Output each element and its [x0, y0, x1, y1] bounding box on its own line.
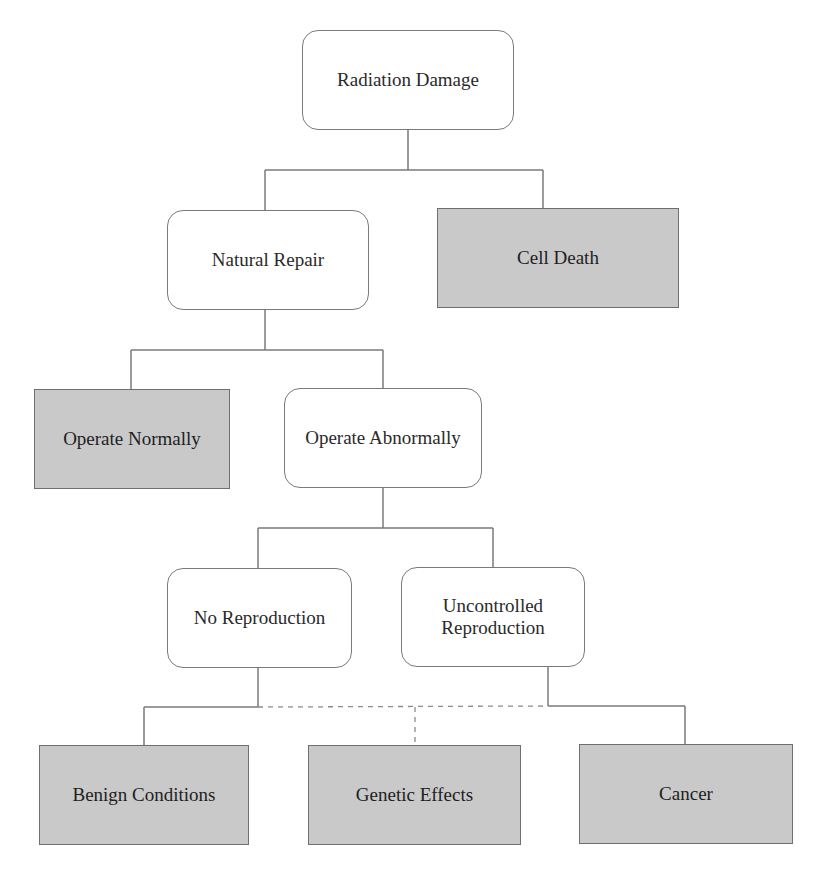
node-label: Benign Conditions [64, 784, 223, 806]
node-label: Uncontrolled Reproduction [425, 595, 561, 639]
node-label: Radiation Damage [329, 69, 487, 91]
node-radiation-damage: Radiation Damage [302, 30, 514, 130]
node-cancer: Cancer [579, 744, 793, 844]
node-benign-conditions: Benign Conditions [39, 745, 249, 845]
node-natural-repair: Natural Repair [167, 210, 369, 310]
node-uncontrolled-reproduction: Uncontrolled Reproduction [401, 567, 585, 667]
dashed-connector-line [258, 706, 548, 707]
radiation-damage-flowchart: Radiation Damage Natural Repair Cell Dea… [0, 0, 822, 870]
node-label: No Reproduction [186, 607, 333, 629]
node-label: Operate Abnormally [297, 427, 469, 449]
node-label: Cancer [651, 783, 721, 805]
node-label: Genetic Effects [348, 784, 481, 806]
node-operate-abnormally: Operate Abnormally [284, 388, 482, 488]
node-label: Operate Normally [55, 428, 209, 450]
node-label: Cell Death [509, 247, 607, 269]
node-cell-death: Cell Death [437, 208, 679, 308]
node-genetic-effects: Genetic Effects [308, 745, 521, 845]
node-no-reproduction: No Reproduction [167, 568, 352, 668]
node-label: Natural Repair [204, 249, 332, 271]
node-operate-normally: Operate Normally [34, 389, 230, 489]
